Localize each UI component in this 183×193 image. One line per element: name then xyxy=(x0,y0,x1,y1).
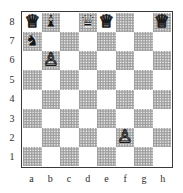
square-b6[interactable]: ♙ xyxy=(42,51,61,70)
square-f4[interactable] xyxy=(116,90,135,109)
square-d7[interactable] xyxy=(79,32,98,51)
square-h6[interactable] xyxy=(153,51,172,70)
square-e4[interactable] xyxy=(97,90,116,109)
square-g2[interactable] xyxy=(134,128,153,147)
file-label-b: b xyxy=(41,170,60,188)
file-label-d: d xyxy=(78,170,97,188)
square-c4[interactable] xyxy=(60,90,79,109)
square-h2[interactable] xyxy=(153,128,172,147)
square-a3[interactable] xyxy=(23,109,42,128)
square-a1[interactable] xyxy=(23,147,42,166)
square-d4[interactable] xyxy=(79,90,98,109)
square-b3[interactable] xyxy=(42,109,61,128)
square-g4[interactable] xyxy=(134,90,153,109)
chess-diagram: 87654321 ♕♝♛♕♕♞♙♙ abcdefgh xyxy=(0,0,183,193)
square-e8[interactable]: ♕ xyxy=(97,13,116,32)
square-e5[interactable] xyxy=(97,70,116,89)
square-b2[interactable] xyxy=(42,128,61,147)
square-h7[interactable] xyxy=(153,32,172,51)
square-d5[interactable] xyxy=(79,70,98,89)
square-c7[interactable] xyxy=(60,32,79,51)
black-bishop-on-b8[interactable]: ♝ xyxy=(42,13,61,32)
square-d2[interactable] xyxy=(79,128,98,147)
square-d1[interactable] xyxy=(79,147,98,166)
square-c1[interactable] xyxy=(60,147,79,166)
square-d3[interactable] xyxy=(79,109,98,128)
square-h4[interactable] xyxy=(153,90,172,109)
rank-label-column: 87654321 xyxy=(4,12,20,167)
file-label-a: a xyxy=(22,170,41,188)
file-label-row: abcdefgh xyxy=(22,170,172,188)
rank-label-2: 2 xyxy=(4,128,20,147)
square-c3[interactable] xyxy=(60,109,79,128)
square-e2[interactable] xyxy=(97,128,116,147)
square-b8[interactable]: ♝ xyxy=(42,13,61,32)
rank-label-8: 8 xyxy=(4,12,20,31)
square-f6[interactable] xyxy=(116,51,135,70)
chess-board-grid: ♕♝♛♕♕♞♙♙ xyxy=(23,13,171,166)
square-f2[interactable]: ♙ xyxy=(116,128,135,147)
file-label-h: h xyxy=(153,170,172,188)
black-queen-on-d8[interactable]: ♛ xyxy=(79,13,98,32)
square-a8[interactable]: ♕ xyxy=(23,13,42,32)
white-queen-on-a8[interactable]: ♕ xyxy=(23,13,42,32)
square-a2[interactable] xyxy=(23,128,42,147)
file-label-e: e xyxy=(97,170,116,188)
square-g6[interactable] xyxy=(134,51,153,70)
square-b1[interactable] xyxy=(42,147,61,166)
file-label-c: c xyxy=(60,170,79,188)
square-c6[interactable] xyxy=(60,51,79,70)
file-label-g: g xyxy=(135,170,154,188)
square-g5[interactable] xyxy=(134,70,153,89)
square-e7[interactable] xyxy=(97,32,116,51)
square-d6[interactable] xyxy=(79,51,98,70)
rank-label-6: 6 xyxy=(4,51,20,70)
square-g7[interactable] xyxy=(134,32,153,51)
square-f1[interactable] xyxy=(116,147,135,166)
square-a5[interactable] xyxy=(23,70,42,89)
square-f7[interactable] xyxy=(116,32,135,51)
square-h5[interactable] xyxy=(153,70,172,89)
white-pawn-on-f2[interactable]: ♙ xyxy=(116,128,135,147)
square-e6[interactable] xyxy=(97,51,116,70)
square-c5[interactable] xyxy=(60,70,79,89)
rank-label-4: 4 xyxy=(4,90,20,109)
square-f3[interactable] xyxy=(116,109,135,128)
rank-label-5: 5 xyxy=(4,70,20,89)
square-c8[interactable] xyxy=(60,13,79,32)
square-a7[interactable]: ♞ xyxy=(23,32,42,51)
file-label-f: f xyxy=(116,170,135,188)
square-h8[interactable]: ♕ xyxy=(153,13,172,32)
square-a4[interactable] xyxy=(23,90,42,109)
chess-board[interactable]: ♕♝♛♕♕♞♙♙ xyxy=(21,11,173,168)
black-knight-on-a7[interactable]: ♞ xyxy=(23,32,42,51)
rank-label-1: 1 xyxy=(4,148,20,167)
square-h3[interactable] xyxy=(153,109,172,128)
square-b5[interactable] xyxy=(42,70,61,89)
rank-label-3: 3 xyxy=(4,109,20,128)
square-g3[interactable] xyxy=(134,109,153,128)
square-d8[interactable]: ♛ xyxy=(79,13,98,32)
rank-label-7: 7 xyxy=(4,31,20,50)
white-pawn-on-b6[interactable]: ♙ xyxy=(42,51,61,70)
square-f8[interactable] xyxy=(116,13,135,32)
white-queen-on-h8[interactable]: ♕ xyxy=(153,13,172,32)
square-h1[interactable] xyxy=(153,147,172,166)
square-b7[interactable] xyxy=(42,32,61,51)
square-a6[interactable] xyxy=(23,51,42,70)
square-b4[interactable] xyxy=(42,90,61,109)
white-queen-on-e8[interactable]: ♕ xyxy=(97,13,116,32)
square-g1[interactable] xyxy=(134,147,153,166)
square-e3[interactable] xyxy=(97,109,116,128)
square-g8[interactable] xyxy=(134,13,153,32)
square-e1[interactable] xyxy=(97,147,116,166)
square-c2[interactable] xyxy=(60,128,79,147)
square-f5[interactable] xyxy=(116,70,135,89)
